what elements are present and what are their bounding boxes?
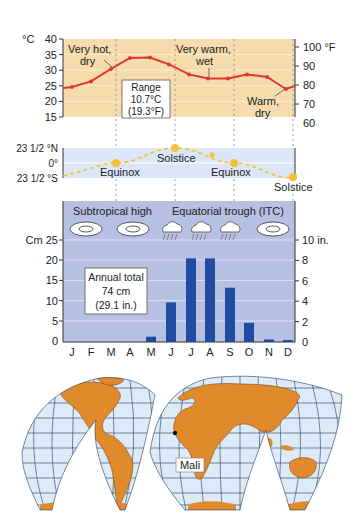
temp-tick-f: 70 xyxy=(303,98,315,110)
precip-tick: 15 xyxy=(46,274,58,286)
precip-tick-in: 10 in. xyxy=(302,234,329,246)
temperature-chart: °C 40 35 30 25 20 15 100 °F 90 80 70 60 … xyxy=(22,33,336,129)
svg-text:Range: Range xyxy=(131,82,161,93)
month-label: D xyxy=(284,346,292,358)
sun-declination-chart: 23 1/2 °N 0° 23 1/2 °S Equinox Solstice … xyxy=(16,143,312,193)
svg-text:Annual total: Annual total xyxy=(88,271,143,283)
temp-tick: 20 xyxy=(45,95,57,107)
temp-tick: 30 xyxy=(45,64,57,76)
label-solstice-1: Solstice xyxy=(157,152,196,164)
month-label: A xyxy=(206,346,214,358)
precip-tick: 20 xyxy=(46,254,58,266)
climograph: °C 40 35 30 25 20 15 100 °F 90 80 70 60 … xyxy=(0,0,360,515)
precip-tick-in: 6 xyxy=(302,275,308,287)
svg-text:(19.3°F): (19.3°F) xyxy=(128,106,164,117)
label-warm-dry: dry xyxy=(255,107,271,119)
temp-tick: 15 xyxy=(45,111,57,123)
precip-tick-in: 4 xyxy=(302,295,308,307)
precip-tick-in: 0 xyxy=(302,336,308,348)
precip-tick: Cm 25 xyxy=(26,234,58,246)
month-label: O xyxy=(245,346,254,358)
label-wet: wet xyxy=(195,55,213,67)
precip-tick: 10 xyxy=(46,295,58,307)
label-dry: dry xyxy=(80,55,96,67)
precip-tick-in: 8 xyxy=(302,254,308,266)
month-label: F xyxy=(88,346,95,358)
precip-tick: 5 xyxy=(52,315,58,327)
temp-tick: 35 xyxy=(45,49,57,61)
temp-tick-f: 100 °F xyxy=(303,41,336,53)
label-equatorial-trough: Equatorial trough (ITC) xyxy=(172,205,284,217)
label-equinox-1: Equinox xyxy=(100,166,140,178)
world-map: Mali xyxy=(0,370,360,515)
annual-total-box: Annual total 74 cm (29.1 in.) xyxy=(85,268,147,314)
mali-label: Mali xyxy=(176,458,204,472)
tick-23s: 23 1/2 °S xyxy=(17,173,59,184)
tick-23n: 23 1/2 °N xyxy=(16,143,58,154)
month-label: S xyxy=(226,346,233,358)
temp-unit-c: °C xyxy=(22,33,34,45)
label-equinox-2: Equinox xyxy=(211,166,251,178)
label-very-hot: Very hot, xyxy=(68,43,111,55)
month-label: N xyxy=(265,346,273,358)
svg-text:(29.1 in.): (29.1 in.) xyxy=(95,299,136,311)
month-label: J xyxy=(168,346,174,358)
label-subtropical-high: Subtropical high xyxy=(73,205,152,217)
svg-text:10.7°C: 10.7°C xyxy=(131,94,162,105)
temp-tick-f: 90 xyxy=(303,60,315,72)
precip-tick-in: 2 xyxy=(302,316,308,328)
precipitation-chart: Cm 25 20 15 10 5 0 10 in. 8 6 4 2 0 Subt… xyxy=(26,201,329,358)
label-very-warm: Very warm, xyxy=(176,43,231,55)
tick-0: 0° xyxy=(48,158,58,169)
month-label: M xyxy=(146,346,155,358)
temp-tick-f: 60 xyxy=(303,117,315,129)
label-solstice-2: Solstice xyxy=(274,181,313,193)
precip-tick: 0 xyxy=(52,335,58,347)
month-label: J xyxy=(69,346,75,358)
label-warm: Warm, xyxy=(247,95,279,107)
temp-tick-f: 80 xyxy=(303,79,315,91)
mali-location-marker xyxy=(173,431,177,435)
temp-tick: 25 xyxy=(45,80,57,92)
temp-tick: 40 xyxy=(45,33,57,45)
svg-text:74 cm: 74 cm xyxy=(102,285,131,297)
month-label: A xyxy=(126,346,134,358)
range-box: Range 10.7°C (19.3°F) xyxy=(122,80,170,118)
month-label: J xyxy=(188,346,194,358)
svg-text:Mali: Mali xyxy=(180,459,200,471)
month-label: M xyxy=(106,346,115,358)
